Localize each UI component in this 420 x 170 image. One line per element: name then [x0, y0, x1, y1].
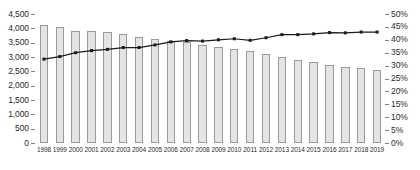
y-axis-right-tick — [385, 66, 389, 67]
line-marker — [201, 40, 204, 43]
y-axis-left-tick — [31, 43, 35, 44]
y-axis-left-tick — [31, 71, 35, 72]
line-marker — [153, 43, 156, 46]
y-axis-left-tick-label: 500 — [0, 124, 29, 133]
y-axis-left-tick-label: 3,000 — [0, 53, 29, 62]
y-axis-right-line — [0, 130, 1, 170]
line-marker — [90, 49, 93, 52]
y-axis-right-tick — [385, 117, 389, 118]
y-axis-left-tick-label: 3,500 — [0, 38, 29, 47]
y-axis-left-tick — [31, 143, 35, 144]
y-axis-left-tick-label: 2,500 — [0, 67, 29, 76]
line-marker — [138, 46, 141, 49]
x-axis-labels: 1998199920002001200220032004200520062007… — [36, 146, 385, 160]
line-marker — [360, 31, 363, 34]
y-axis-left-tick — [31, 100, 35, 101]
y-axis-right-tick-label: 40% — [391, 35, 420, 44]
y-axis-left-tick-label: 0 — [0, 139, 29, 148]
chart-container: 05001,0001,5002,0002,5003,0003,5004,0004… — [0, 0, 420, 170]
y-axis-right-tick — [385, 104, 389, 105]
y-axis-right-tick — [385, 53, 389, 54]
y-axis-left-tick — [31, 129, 35, 130]
y-axis-left-tick-label: 1,000 — [0, 110, 29, 119]
y-axis-right-tick — [385, 130, 389, 131]
line-marker — [74, 51, 77, 54]
y-axis-right-tick — [385, 79, 389, 80]
y-axis-right-tick-label: 0% — [391, 139, 420, 148]
y-axis-left-tick — [31, 114, 35, 115]
line-marker — [249, 39, 252, 42]
line-marker — [233, 37, 236, 40]
y-axis-right-tick — [385, 40, 389, 41]
y-axis-right-tick-label: 25% — [391, 74, 420, 83]
y-axis-right-tick-label: 15% — [391, 100, 420, 109]
y-axis-right-tick — [385, 14, 389, 15]
line-marker — [58, 55, 61, 58]
y-axis-right-tick — [385, 91, 389, 92]
y-axis-left-tick — [31, 57, 35, 58]
y-axis-right-tick-label: 30% — [391, 61, 420, 70]
x-axis-tick-label: 2019 — [368, 146, 386, 153]
y-axis-right-tick — [385, 27, 389, 28]
line-series — [36, 14, 385, 143]
y-axis-left-tick-label: 2,000 — [0, 81, 29, 90]
y-axis-right-tick-label: 50% — [391, 10, 420, 19]
y-axis-left-tick-label: 4,000 — [0, 24, 29, 33]
y-axis-right-tick — [385, 143, 389, 144]
line-marker — [265, 36, 268, 39]
line-marker — [185, 39, 188, 42]
line-marker — [122, 46, 125, 49]
y-axis-left-tick-label: 1,500 — [0, 96, 29, 105]
y-axis-left-tick — [31, 28, 35, 29]
y-axis-right-tick-label: 45% — [391, 22, 420, 31]
line-marker — [169, 40, 172, 43]
line-marker — [376, 31, 379, 34]
y-axis-right-tick-label: 20% — [391, 87, 420, 96]
line-markers — [42, 31, 378, 61]
y-axis-right-tick-label: 5% — [391, 126, 420, 135]
line-marker — [42, 58, 45, 61]
line-marker — [344, 31, 347, 34]
line-marker — [312, 32, 315, 35]
plot-area — [36, 14, 385, 143]
line-marker — [217, 38, 220, 41]
line-marker — [328, 31, 331, 34]
y-axis-left-tick — [31, 14, 35, 15]
line-path — [44, 32, 377, 59]
line-marker — [296, 33, 299, 36]
y-axis-left-tick — [31, 86, 35, 87]
line-marker — [280, 33, 283, 36]
y-axis-right-tick-label: 35% — [391, 48, 420, 57]
line-marker — [106, 48, 109, 51]
y-axis-left-tick-label: 4,500 — [0, 10, 29, 19]
y-axis-right-tick-label: 10% — [391, 113, 420, 122]
